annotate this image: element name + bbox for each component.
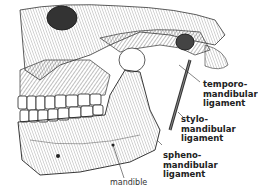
anatomy-figure: temporo- mandibular ligament stylo- mand… — [0, 0, 258, 191]
label-line: ligament — [163, 170, 218, 180]
label-stylomandibular-ligament: stylo- mandibular ligament — [181, 115, 236, 144]
label-line: ligament — [203, 99, 258, 109]
label-line: ligament — [181, 134, 236, 144]
label-line: mandible — [110, 178, 147, 188]
label-mandible: mandible — [110, 178, 147, 188]
label-temporomandibular-ligament: temporo- mandibular ligament — [203, 80, 258, 109]
label-sphenomandibular-ligament: spheno- mandibular ligament — [163, 151, 218, 180]
